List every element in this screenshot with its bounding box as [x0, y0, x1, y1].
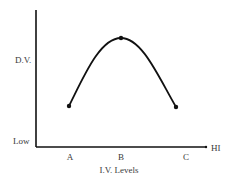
point-b: [119, 36, 123, 40]
x-axis-end-dot: [205, 146, 207, 148]
category-c: C: [183, 152, 189, 162]
y-low-label: Low: [13, 136, 30, 146]
point-c: [174, 105, 178, 109]
x-axis-label: I.V. Levels: [99, 165, 139, 175]
dv-curve: [69, 38, 176, 107]
inverted-u-chart: D.V. Low HI A B C I.V. Levels: [0, 0, 234, 188]
point-a: [67, 104, 71, 108]
y-axis-label: D.V.: [15, 55, 31, 65]
x-high-label: HI: [211, 143, 221, 153]
category-b: B: [118, 152, 124, 162]
category-a: A: [67, 152, 74, 162]
